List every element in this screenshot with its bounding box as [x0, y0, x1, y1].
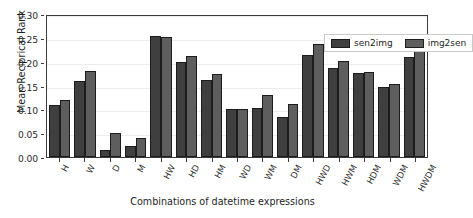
bar-sen2img-D: [100, 150, 111, 157]
x-tick-label: D: [110, 163, 122, 174]
y-tick-label: 0.10: [18, 105, 38, 116]
x-tick-mark: [288, 158, 289, 162]
bar-sen2img-M: [125, 146, 136, 157]
bar-group: [98, 16, 123, 157]
legend-entry-sen2img: sen2img: [331, 38, 393, 48]
bar-img2sen-HW: [161, 37, 172, 157]
legend-swatch-img2sen: [405, 39, 424, 48]
bar-sen2img-HWDM: [404, 57, 415, 157]
y-tick-mark: [41, 63, 45, 64]
x-tick-label: M: [135, 163, 147, 174]
legend-label-img2sen: img2sen: [428, 38, 467, 48]
x-tick: HW: [148, 158, 173, 192]
x-tick: WD: [224, 158, 249, 192]
bar-img2sen-D: [110, 133, 121, 157]
x-tick-mark: [390, 158, 391, 162]
bar-sen2img-HWD: [302, 55, 313, 157]
bar-sen2img-HM: [201, 80, 212, 157]
x-tick: HWM: [326, 158, 351, 192]
bar-sen2img-HD: [176, 62, 187, 157]
bar-group: [275, 16, 300, 157]
chart-legend: sen2img img2sen: [324, 34, 473, 52]
x-tick-mark: [110, 158, 111, 162]
bar-group: [72, 16, 97, 157]
y-tick-label: 0.15: [18, 81, 38, 92]
bar-img2sen-HWM: [338, 61, 349, 157]
bar-group: [300, 16, 325, 157]
x-tick-mark: [313, 158, 314, 162]
bar-sen2img-DM: [277, 117, 288, 157]
x-tick: D: [97, 158, 122, 192]
x-tick-mark: [415, 158, 416, 162]
bar-sen2img-WDM: [378, 87, 389, 157]
bar-sen2img-W: [74, 81, 85, 157]
x-tick-mark: [135, 158, 136, 162]
bar-img2sen-HWD: [313, 44, 324, 157]
y-tick-label: 0.25: [18, 33, 38, 44]
y-tick-label: 0.00: [18, 153, 38, 164]
x-tick-label: HWDM: [416, 163, 438, 193]
y-tick-label: 0.05: [18, 129, 38, 140]
bar-group: [250, 16, 275, 157]
bar-img2sen-HDM: [364, 72, 375, 157]
y-tick-mark: [41, 110, 45, 111]
bar-img2sen-HM: [212, 74, 223, 157]
x-tick: WDM: [377, 158, 402, 192]
bar-img2sen-WM: [262, 95, 273, 157]
bar-sen2img-HDM: [353, 73, 364, 157]
legend-entry-img2sen: img2sen: [405, 38, 467, 48]
x-tick-mark: [364, 158, 365, 162]
bar-img2sen-H: [60, 100, 71, 157]
x-tick-mark: [237, 158, 238, 162]
bar-group: [148, 16, 173, 157]
x-tick: DM: [275, 158, 300, 192]
x-tick-mark: [339, 158, 340, 162]
x-tick: M: [122, 158, 147, 192]
bar-img2sen-DM: [288, 104, 299, 157]
bar-sen2img-WD: [226, 109, 237, 157]
y-tick-mark: [41, 39, 45, 40]
x-tick: HWDM: [403, 158, 428, 192]
bar-group: [199, 16, 224, 157]
y-tick-mark: [41, 158, 45, 159]
x-tick: W: [71, 158, 96, 192]
plot-area: sen2img img2sen: [46, 15, 428, 158]
y-tick-mark: [41, 15, 45, 16]
x-tick-mark: [84, 158, 85, 162]
bar-sen2img-HW: [150, 36, 161, 157]
x-tick-mark: [212, 158, 213, 162]
legend-label-sen2img: sen2img: [354, 38, 393, 48]
x-tick: WM: [250, 158, 275, 192]
bar-img2sen-WD: [237, 109, 248, 157]
y-tick-label: 0.20: [18, 57, 38, 68]
bar-img2sen-HWDM: [414, 48, 425, 157]
x-axis-label: Combinations of datetime expressions: [0, 196, 445, 207]
x-tick-label: H: [59, 163, 71, 173]
y-axis: Mean Reciprical Rank 0.000.050.100.150.2…: [0, 15, 44, 158]
x-tick: HDM: [352, 158, 377, 192]
x-tick-label: W: [84, 163, 97, 175]
y-tick-mark: [41, 134, 45, 135]
bar-img2sen-W: [85, 71, 96, 157]
x-tick: HD: [173, 158, 198, 192]
legend-swatch-sen2img: [331, 39, 350, 48]
y-tick-mark: [41, 87, 45, 88]
x-tick: HM: [199, 158, 224, 192]
x-axis: HWDMHWHDHMWDWMDMHWDHWMHDMWDMHWDM: [46, 158, 428, 192]
x-tick-mark: [59, 158, 60, 162]
x-tick-mark: [186, 158, 187, 162]
bar-sen2img-HWM: [328, 68, 339, 157]
bar-group: [123, 16, 148, 157]
bar-img2sen-WDM: [389, 84, 400, 157]
bar-img2sen-M: [136, 138, 147, 157]
x-tick-mark: [161, 158, 162, 162]
bar-group: [174, 16, 199, 157]
bar-group: [47, 16, 72, 157]
x-tick: HWD: [301, 158, 326, 192]
x-tick-mark: [262, 158, 263, 162]
x-tick: H: [46, 158, 71, 192]
bar-sen2img-H: [49, 105, 60, 157]
bar-sen2img-WM: [252, 108, 263, 157]
bar-group: [224, 16, 249, 157]
